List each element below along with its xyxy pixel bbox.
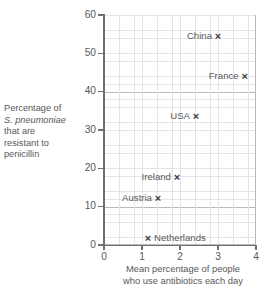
data-point-marker-usa[interactable]: ×: [193, 111, 199, 122]
x-axis-label: Mean percentage of peoplewho use antibio…: [100, 263, 266, 287]
y-tick-label-50: 50: [74, 47, 96, 58]
y-tick-60: [98, 14, 103, 15]
x-tick-label-1: 1: [132, 251, 152, 262]
x-tick-label-0: 0: [94, 251, 114, 262]
x-tick-label-2: 2: [170, 251, 190, 262]
y-axis-label-line-2: that are: [4, 126, 84, 138]
x-tick-label-4: 4: [246, 251, 266, 262]
y-tick-50: [98, 53, 103, 54]
y-tick-30: [98, 129, 103, 130]
data-point-marker-austria[interactable]: ×: [155, 192, 161, 203]
y-tick-label-30: 30: [74, 124, 96, 135]
data-point-marker-netherlands[interactable]: ×: [145, 233, 151, 244]
plot-area: [104, 15, 256, 245]
data-point-label-china: China: [0, 31, 212, 41]
data-point-label-ireland: Ireland: [0, 172, 171, 182]
data-point-marker-ireland[interactable]: ×: [174, 171, 180, 182]
data-point-label-netherlands: Netherlands: [154, 233, 206, 243]
y-tick-40: [98, 91, 103, 92]
y-tick-label-60: 60: [74, 9, 96, 20]
y-tick-label-40: 40: [74, 85, 96, 96]
y-axis-label-line-3: resistant to: [4, 138, 84, 150]
x-tick-4: [255, 245, 256, 250]
y-axis-line: [103, 14, 105, 246]
x-axis-label-line-1: who use antibiotics each day: [100, 275, 266, 287]
y-axis-label-line-4: penicillin: [4, 149, 84, 161]
data-point-label-france: France: [0, 72, 239, 82]
data-point-marker-france[interactable]: ×: [241, 71, 247, 82]
y-tick-0: [98, 244, 103, 245]
x-tick-label-3: 3: [208, 251, 228, 262]
x-axis-label-line-0: Mean percentage of people: [100, 263, 266, 275]
data-point-marker-china[interactable]: ×: [215, 31, 221, 42]
y-tick-label-0: 0: [74, 239, 96, 250]
data-point-label-austria: Austria: [0, 193, 152, 203]
x-tick-3: [217, 245, 218, 250]
x-tick-2: [179, 245, 180, 250]
y-tick-20: [98, 168, 103, 169]
data-point-label-usa: USA: [0, 111, 190, 121]
y-tick-10: [98, 206, 103, 207]
x-tick-1: [141, 245, 142, 250]
x-tick-0: [103, 245, 104, 250]
